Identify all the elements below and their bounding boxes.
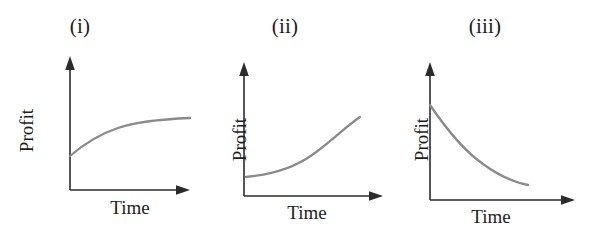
x-axis-label-i: Time [85,198,175,217]
x-axis-arrowhead-iii [561,195,575,205]
curve-convex-decreasing-iii [430,105,528,185]
chart-panel-iii: (iii) Profit Time [395,0,605,233]
y-axis-arrowhead-ii [239,62,249,76]
x-axis-label-ii: Time [262,203,352,222]
chart-panel-ii: (ii) Profit Time [205,0,395,233]
y-axis-label-iii: Profit [412,108,431,172]
y-axis-label-i: Profit [17,99,36,163]
x-axis-label-iii: Time [446,207,536,226]
figure-container: (i) Profit Time (ii) Profit Tim [0,0,605,233]
chart-panel-i: (i) Profit Time [0,0,205,233]
y-axis-arrowhead-iii [425,62,435,76]
curve-concave-increasing-i [70,118,190,156]
curve-convex-increasing-ii [246,117,360,177]
x-axis-arrowhead-ii [369,191,383,201]
x-axis-arrowhead-i [176,185,190,195]
y-axis-arrowhead-i [65,56,75,70]
y-axis-label-ii: Profit [230,108,249,172]
